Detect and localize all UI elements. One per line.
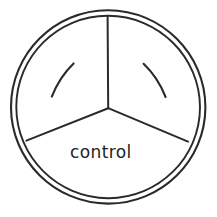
divider-lower-left xyxy=(26,108,108,140)
diagram-canvas: control xyxy=(0,0,217,217)
divider-top xyxy=(108,16,109,108)
upper-left-tick-arc-icon xyxy=(52,63,74,96)
divider-lower-right xyxy=(108,108,188,141)
upper-right-tick-arc-icon xyxy=(144,64,166,97)
segment-label-control: control xyxy=(70,142,132,162)
circle-diagram-svg: control xyxy=(0,0,217,217)
